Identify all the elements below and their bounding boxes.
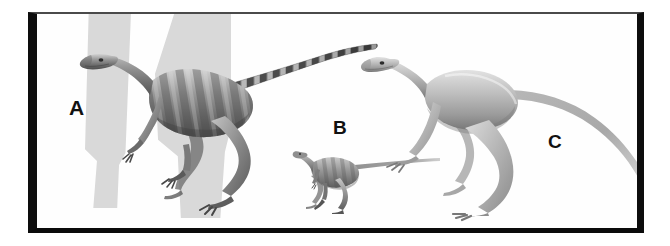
figure-plate-frame: A B C xyxy=(28,12,644,233)
dinosaur-c-tail xyxy=(504,90,637,176)
dinosaur-c-torso xyxy=(425,70,518,134)
figure-canvas: A B C xyxy=(37,14,637,228)
dinosaur-a-head xyxy=(80,54,118,69)
dinosaur-illustration-c xyxy=(385,36,637,216)
dinosaur-a-mid-hindfoot xyxy=(162,144,191,188)
dinosaur-a-near-forelimb xyxy=(123,96,163,162)
figure-root: A B C xyxy=(0,0,670,246)
panel-label-b: B xyxy=(333,118,347,137)
dinosaur-a-torso xyxy=(149,69,253,137)
dinosaur-a-neck xyxy=(110,57,153,95)
panel-label-c: C xyxy=(548,132,562,151)
dinosaur-c-near-forelimb xyxy=(387,102,441,172)
panel-label-a: A xyxy=(69,97,84,118)
